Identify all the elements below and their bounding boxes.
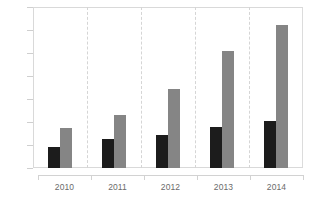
bar-2011-series-1	[102, 139, 114, 168]
x-axis-tick	[250, 175, 251, 180]
x-axis-tick	[197, 175, 198, 180]
x-axis-label-2012: 2012	[161, 183, 180, 192]
bar-2010-series-2	[60, 128, 72, 168]
x-axis-line	[38, 175, 303, 176]
bar-2013-series-2	[222, 51, 234, 168]
x-axis-tick	[38, 175, 39, 180]
x-axis-tick	[144, 175, 145, 180]
x-axis-tick	[91, 175, 92, 180]
x-axis-tick	[303, 175, 304, 180]
bar-2011-series-2	[114, 115, 126, 168]
bar-2012-series-1	[156, 135, 168, 168]
x-axis-label-2010: 2010	[55, 183, 74, 192]
x-axis-label-2011: 2011	[108, 183, 127, 192]
bar-chart: 02004006008001,0001,2001,400 20102011201…	[0, 0, 311, 202]
bar-2010-series-1	[48, 147, 60, 168]
bar-2013-series-1	[210, 127, 222, 168]
bar-2014-series-1	[264, 121, 276, 168]
bar-2014-series-2	[276, 25, 288, 168]
x-axis-label-2014: 2014	[267, 183, 286, 192]
bar-2012-series-2	[168, 89, 180, 168]
bars-layer	[33, 7, 303, 168]
x-axis-label-2013: 2013	[214, 183, 233, 192]
y-axis-tick	[27, 168, 33, 169]
